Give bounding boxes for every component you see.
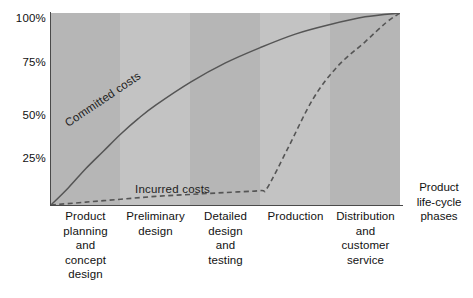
y-tick-50: 50% <box>2 109 46 121</box>
curve-layer <box>51 13 400 205</box>
phase-label-detailed-design: Detaileddesignandtesting <box>188 209 263 267</box>
incurred-costs-curve <box>51 13 400 205</box>
committed-costs-curve <box>51 13 400 205</box>
phase-label-row: Productplanningandconceptdesign Prelimin… <box>51 209 400 295</box>
phase-label-distribution: Distributionandcustomerservice <box>328 209 403 267</box>
x-axis-line <box>50 205 403 206</box>
y-tick-75: 75% <box>2 56 46 68</box>
incurred-costs-label: Incurred costs <box>135 183 210 195</box>
phase-label-production: Production <box>258 209 333 224</box>
phase-label-preliminary-design: Preliminarydesign <box>118 209 193 238</box>
x-axis-title: Productlife-cyclephases <box>406 180 472 224</box>
cost-commitment-chart: 100% 75% 50% 25% Committed costs Incurre… <box>0 0 473 298</box>
y-tick-100: 100% <box>2 12 46 24</box>
y-axis-tick-labels: 100% 75% 50% 25% <box>0 0 46 210</box>
phase-label-product-planning: Productplanningandconceptdesign <box>48 209 123 282</box>
y-tick-25: 25% <box>2 152 46 164</box>
